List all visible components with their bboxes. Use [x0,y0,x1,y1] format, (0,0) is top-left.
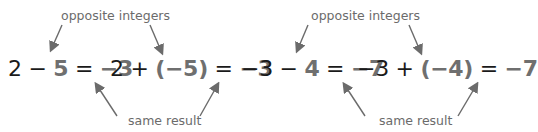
label-opposite-integers-1: opposite integers [61,8,170,23]
result: −7 [505,56,538,81]
term: 2 [110,56,124,81]
highlighted-term: 4 [304,56,319,81]
operator: + [124,56,156,81]
label-same-result-2: same result [379,113,452,128]
arrow-to-neg4 [409,25,421,53]
label-same-result-1: same result [128,113,201,128]
highlighted-term: 5 [53,56,68,81]
arrow-to-neg5 [150,25,162,53]
label-opposite-integers-2: opposite integers [311,8,420,23]
highlighted-term: (−5) [155,56,208,81]
term: −3 [357,56,389,81]
operator: − [273,56,305,81]
highlighted-term: (−4) [420,56,473,81]
operator: − [22,56,54,81]
operator: + [389,56,421,81]
equals: = [68,56,100,81]
equals: = [473,56,505,81]
arrow-to-5 [51,25,62,50]
equals: = [319,56,351,81]
arrow-to-result-neg7-b [458,84,477,116]
arrow-to-result-neg3-a [96,84,117,116]
equation-4: −3 + (−4) = −7 [357,56,538,82]
arrow-to-4 [297,25,308,51]
arrow-to-result-neg7-a [344,84,365,116]
term: 2 [8,56,22,81]
equals: = [208,56,240,81]
arrow-to-result-neg3-b [200,84,218,116]
term: −3 [241,56,273,81]
